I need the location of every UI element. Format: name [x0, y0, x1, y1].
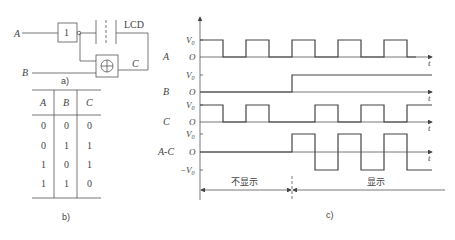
svg-text:V0: V0	[186, 129, 195, 140]
inverter-label: 1	[64, 27, 69, 38]
cell: 1	[64, 140, 69, 151]
on-region-label: 显示	[367, 177, 385, 187]
truth-table: A B C 0 0 0 0 1 1 1 0 1 1 1 0 b)	[32, 90, 101, 222]
table-row: 1 0 1	[41, 159, 92, 170]
cell: 1	[41, 159, 46, 170]
cell: 0	[64, 120, 69, 131]
caption-c: c)	[326, 210, 334, 220]
output-c-label: C	[132, 58, 139, 69]
cell: 1	[87, 140, 92, 151]
caption-a: a)	[61, 76, 69, 86]
table-row: 0 0 0	[41, 120, 92, 131]
lcd-drive-figure: A 1 LCD C B a) A B C 0 0 0	[0, 0, 455, 240]
row-label-a: A	[162, 51, 170, 62]
cell: 0	[41, 140, 46, 151]
zero-label-ac: O	[189, 147, 196, 157]
row-label-a-c: A-C	[157, 146, 174, 157]
row-label-c: C	[163, 116, 170, 127]
t-label-ac: t	[428, 153, 431, 163]
t-label-b: t	[428, 93, 431, 103]
caption-b: b)	[62, 212, 70, 222]
level-labels: V0 O V0 O V0 O V0 O −V0	[180, 35, 196, 176]
row-label-b: B	[163, 86, 169, 97]
cell: 0	[64, 159, 69, 170]
waveform-a	[200, 40, 416, 57]
zero-label-a: O	[189, 52, 196, 62]
waveform-b	[200, 75, 432, 92]
timing-diagram: A B C A-C V0 O V0 O V0 O V0 O −V0 t t t …	[157, 17, 445, 220]
cell: 1	[41, 178, 46, 189]
input-b-label: B	[22, 67, 28, 78]
table-header-a: A	[39, 97, 47, 108]
table-header-b: B	[63, 97, 69, 108]
lcd-label: LCD	[124, 19, 144, 30]
svg-text:V0: V0	[186, 70, 195, 81]
t-label-c: t	[428, 123, 431, 133]
zero-label-b: O	[189, 87, 196, 97]
svg-text:V0: V0	[186, 35, 195, 46]
input-a-label: A	[13, 28, 21, 39]
cell: 0	[87, 178, 92, 189]
circuit-diagram: A 1 LCD C B a)	[13, 19, 148, 86]
cell: 0	[41, 120, 46, 131]
waveform-c	[200, 105, 432, 122]
zero-label-c: O	[189, 117, 196, 127]
table-header-c: C	[86, 97, 93, 108]
table-row: 1 1 0	[41, 178, 92, 189]
cell: 1	[64, 178, 69, 189]
t-label-a: t	[428, 58, 431, 68]
off-region-label: 不显示	[231, 177, 258, 187]
cell: 1	[87, 159, 92, 170]
table-row: 0 1 1	[41, 140, 92, 151]
svg-text:−V0: −V0	[180, 165, 195, 176]
wire-inv-to-xor	[80, 33, 96, 61]
cell: 0	[87, 120, 92, 131]
svg-text:V0: V0	[186, 100, 195, 111]
